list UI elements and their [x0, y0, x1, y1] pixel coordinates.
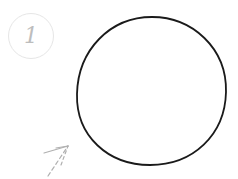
start-arrow-icon — [44, 146, 68, 176]
drawing-step-canvas: 1 — [0, 0, 238, 179]
hand-drawn-circle — [77, 17, 226, 165]
drawing-svg — [0, 0, 238, 179]
